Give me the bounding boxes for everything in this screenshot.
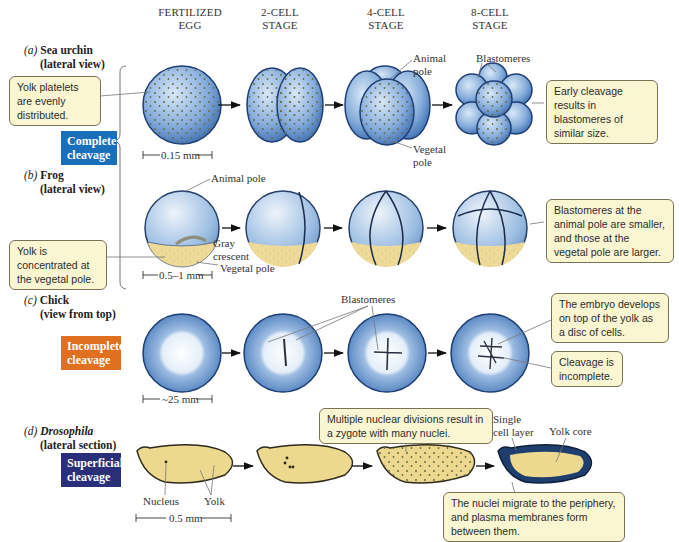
chick-4-cell	[348, 314, 426, 392]
row-letter: (c)	[24, 294, 37, 306]
frog-egg	[145, 191, 219, 267]
chick-egg	[143, 314, 221, 392]
note-blastomeres-size: Blastomeres at the animal pole are small…	[546, 199, 674, 263]
label-blastomeres-chick: Blastomeres	[341, 293, 395, 306]
frog-8-cell	[453, 191, 527, 267]
scale-frog: 0.5–1 mm	[159, 269, 204, 281]
complete-cleavage-bracket	[114, 66, 126, 289]
tag-line1: Complete	[67, 134, 111, 148]
drosophila-syncytium	[377, 445, 475, 483]
row-c-label: (c) Chick (view from top)	[24, 293, 116, 321]
view-type: (lateral section)	[40, 439, 116, 451]
tag-line2: cleavage	[67, 470, 115, 484]
label-animal-pole-frog: Animal pole	[211, 172, 266, 185]
label-vegetal-pole-urchin: Vegetal pole	[413, 143, 453, 169]
row-letter: (b)	[24, 169, 37, 181]
scale-sea-urchin: 0.15 mm	[161, 149, 200, 161]
label-gray-crescent: Gray crescent	[213, 237, 253, 263]
superficial-cleavage-tag: Superficial cleavage	[61, 453, 121, 487]
label-vegetal-pole-frog: Vegetal pole	[220, 262, 275, 275]
label-single-cell-layer: Single cell layer	[493, 413, 537, 439]
drosophila-nuclear-division	[257, 445, 353, 483]
organism-name: Chick	[40, 294, 69, 306]
sea-urchin-8-cell	[456, 63, 532, 145]
label-yolk-core: Yolk core	[549, 425, 592, 438]
sea-urchin-egg	[143, 66, 221, 144]
note-yolk-platelets: Yolk platelets are evenly distributed.	[9, 76, 101, 126]
chick-2-cell	[244, 314, 322, 392]
view-type: (view from top)	[40, 308, 116, 320]
note-yolk-vegetal: Yolk is concentrated at the vegetal pole…	[9, 240, 107, 290]
tag-line1: Superficial	[67, 456, 115, 470]
label-yolk: Yolk	[204, 495, 225, 508]
tag-line2: cleavage	[67, 353, 115, 367]
note-embryo-disc: The embryo develops on top of the yolk a…	[551, 293, 669, 343]
organism-name: Sea urchin	[40, 44, 93, 56]
row-letter: (d)	[24, 425, 37, 437]
organism-name: Drosophila	[40, 425, 93, 437]
label-blastomeres-urchin: Blastomeres	[476, 52, 530, 65]
chick-8-cell	[451, 314, 529, 392]
view-type: (lateral view)	[40, 183, 105, 195]
row-a-label: (a) Sea urchin (lateral view)	[24, 43, 105, 71]
note-early-cleavage: Early cleavage results in blastomeres of…	[546, 80, 658, 144]
organism-name: Frog	[40, 169, 63, 181]
row-d-label: (d) Drosophila (lateral section)	[24, 424, 116, 452]
label-nucleus: Nucleus	[143, 495, 179, 508]
sea-urchin-2-cell	[247, 68, 323, 142]
note-nuclear-divisions: Multiple nuclear divisions result in a z…	[319, 408, 493, 444]
label-animal-pole-urchin: Animal pole	[413, 52, 453, 78]
incomplete-cleavage-tag: Incomplete cleavage	[61, 336, 121, 370]
frog-2-cell	[246, 191, 320, 267]
note-nuclei-migrate: The nuclei migrate to the periphery, and…	[443, 492, 625, 542]
frog-4-cell	[349, 191, 423, 267]
scale-chick: ~25 mm	[162, 393, 199, 405]
row-letter: (a)	[24, 44, 37, 56]
view-type: (lateral view)	[40, 58, 105, 70]
note-cleavage-incomplete: Cleavage is incomplete.	[551, 351, 623, 387]
complete-cleavage-tag: Complete cleavage	[61, 131, 117, 165]
drosophila-cellularized	[498, 445, 592, 483]
scale-drosophila: 0.5 mm	[169, 512, 203, 524]
drosophila-egg	[137, 445, 233, 483]
row-b-label: (b) Frog (lateral view)	[24, 168, 105, 196]
tag-line2: cleavage	[67, 148, 111, 162]
tag-line1: Incomplete	[67, 339, 115, 353]
